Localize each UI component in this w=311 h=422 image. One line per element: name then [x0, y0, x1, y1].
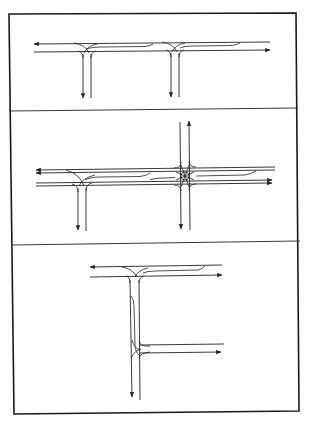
turn-a4 — [91, 51, 96, 58]
cross-turn-ne-1 — [189, 161, 196, 167]
eastbound-lane — [34, 50, 270, 52]
westbound-lane-1 — [36, 167, 275, 170]
top-turn-1 — [122, 267, 137, 277]
cross-turn-sw-1 — [174, 185, 181, 191]
outer-frame — [9, 13, 299, 414]
auxiliary-lane-1 — [86, 44, 153, 49]
auxiliary-lane-2 — [180, 43, 240, 48]
panel-3-stacked-tee-junctions — [90, 265, 224, 400]
weave-lane-1 — [85, 173, 150, 180]
trunk-southbound — [130, 280, 132, 397]
panel-2-tee-and-crossroads — [36, 121, 275, 231]
top-turn-4 — [139, 276, 144, 283]
top-turn-2 — [135, 268, 148, 277]
panel-1-two-tee-junctions — [34, 42, 270, 98]
branch-eastbound-lane — [140, 352, 221, 353]
weave-lane-2 — [150, 178, 175, 181]
eastbound-lane-2 — [36, 183, 272, 186]
panel-divider-2 — [11, 241, 300, 245]
eastbound-lane-1 — [36, 180, 272, 183]
branch-westbound-lane — [140, 344, 224, 345]
tee-turn-4 — [86, 183, 92, 191]
top-eastbound-lane — [90, 275, 222, 277]
top-westbound-lane — [90, 265, 222, 267]
trunk-northbound — [139, 280, 140, 400]
top-auxiliary-lane — [143, 266, 205, 273]
panel-divider-1 — [9, 108, 298, 111]
weave-lane-3 — [196, 171, 256, 176]
westbound-lane — [34, 42, 270, 44]
top-turn-3 — [126, 276, 130, 283]
road-junction-diagram — [0, 0, 311, 422]
